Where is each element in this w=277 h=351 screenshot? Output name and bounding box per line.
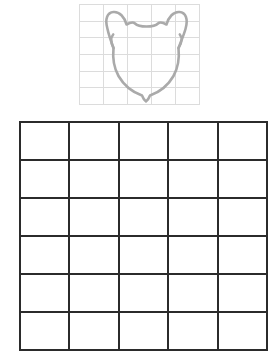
reference-grid-cell — [176, 88, 200, 105]
reference-grid-cell — [80, 22, 104, 39]
reference-grid-cell — [128, 88, 152, 105]
reference-grid-cell — [176, 55, 200, 72]
reference-grid-cell — [80, 88, 104, 105]
worksheet-grid-cell[interactable] — [120, 161, 169, 199]
reference-grid-cell — [128, 72, 152, 89]
worksheet-grid-cell[interactable] — [21, 237, 70, 275]
worksheet-grid-cell[interactable] — [70, 123, 119, 161]
worksheet-grid-cell[interactable] — [120, 237, 169, 275]
reference-grid-cell — [80, 72, 104, 89]
worksheet-grid-cell[interactable] — [21, 161, 70, 199]
worksheet-grid[interactable] — [19, 121, 268, 351]
reference-grid-cell — [128, 5, 152, 22]
worksheet-grid-cell[interactable] — [219, 123, 268, 161]
worksheet-grid-cell[interactable] — [169, 161, 218, 199]
worksheet-grid-cell[interactable] — [169, 123, 218, 161]
worksheet-grid-cell[interactable] — [219, 161, 268, 199]
reference-grid-cell — [152, 88, 176, 105]
reference-grid-cell — [176, 22, 200, 39]
worksheet-grid-cell[interactable] — [120, 123, 169, 161]
worksheet-grid-cell[interactable] — [169, 275, 218, 313]
worksheet-grid-cell[interactable] — [70, 313, 119, 351]
worksheet-grid-cell[interactable] — [120, 199, 169, 237]
reference-grid-cell — [128, 55, 152, 72]
worksheet-grid-cell[interactable] — [70, 237, 119, 275]
worksheet-grid-cell[interactable] — [21, 199, 70, 237]
worksheet-grid-cell[interactable] — [169, 313, 218, 351]
reference-grid-cell — [152, 72, 176, 89]
worksheet-grid-cell[interactable] — [70, 161, 119, 199]
worksheet-grid-cell[interactable] — [219, 237, 268, 275]
reference-grid-cell — [152, 22, 176, 39]
worksheet-grid-cell[interactable] — [219, 275, 268, 313]
reference-grid-cell — [128, 22, 152, 39]
reference-grid-cell — [176, 38, 200, 55]
worksheet-panel — [19, 121, 268, 351]
reference-grid-cell — [104, 38, 128, 55]
reference-grid-cell — [80, 5, 104, 22]
worksheet-grid-cell[interactable] — [21, 313, 70, 351]
worksheet-grid-cell[interactable] — [21, 275, 70, 313]
worksheet-grid-cell[interactable] — [120, 313, 169, 351]
reference-panel — [79, 4, 200, 105]
reference-grid-cell — [152, 55, 176, 72]
reference-grid-cell — [176, 72, 200, 89]
reference-grid-cell — [104, 72, 128, 89]
worksheet-grid-cell[interactable] — [70, 275, 119, 313]
worksheet-grid-cell[interactable] — [169, 237, 218, 275]
reference-grid — [79, 4, 200, 105]
worksheet-grid-cell[interactable] — [120, 275, 169, 313]
reference-grid-cell — [128, 38, 152, 55]
reference-grid-cell — [80, 38, 104, 55]
reference-grid-cell — [104, 88, 128, 105]
reference-grid-cell — [152, 5, 176, 22]
worksheet-grid-cell[interactable] — [21, 123, 70, 161]
reference-grid-cell — [104, 22, 128, 39]
worksheet-grid-cell[interactable] — [219, 313, 268, 351]
reference-grid-cell — [176, 5, 200, 22]
reference-grid-cell — [152, 38, 176, 55]
reference-grid-cell — [104, 5, 128, 22]
worksheet-grid-cell[interactable] — [169, 199, 218, 237]
worksheet-grid-cell[interactable] — [70, 199, 119, 237]
reference-grid-cell — [104, 55, 128, 72]
worksheet-grid-cell[interactable] — [219, 199, 268, 237]
reference-grid-cell — [80, 55, 104, 72]
